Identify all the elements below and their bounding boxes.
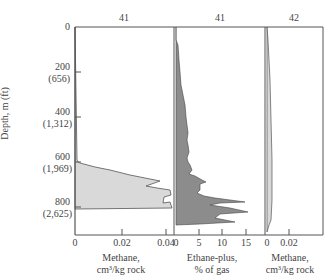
- panel2-title: 41: [215, 12, 225, 23]
- panel3-methane-area: [267, 27, 272, 232]
- ytick-600: 600: [40, 151, 70, 162]
- ytick-600-ft: (1,969): [20, 163, 72, 174]
- panel2-ethane-area: [176, 27, 248, 225]
- p3-xtick-0: 0: [265, 237, 270, 248]
- p1-xtick-1: 0.02: [113, 237, 131, 248]
- panel1-methane-area: [75, 27, 172, 209]
- panel3-title: 42: [289, 12, 299, 23]
- p3-xlabel-line2: cm³/kg rock: [266, 264, 314, 275]
- ytick-400: 400: [40, 106, 70, 117]
- ytick-400-ft: (1,312): [20, 118, 72, 129]
- p2-xtick-2: 10: [217, 237, 227, 248]
- ytick-200-ft: (656): [30, 73, 70, 84]
- p1-xtick-0: 0: [73, 237, 78, 248]
- p2-xtick-0: 0: [174, 237, 179, 248]
- p3-xtick-1: 0.02: [280, 237, 298, 248]
- panel1-title: 41: [119, 12, 129, 23]
- ytick-0: 0: [40, 21, 70, 32]
- p1-xtick-2: 0.04: [157, 237, 175, 248]
- ytick-200: 200: [40, 61, 70, 72]
- y-axis-label: Depth, m (ft): [0, 87, 10, 140]
- p2-xtick-1: 5: [197, 237, 202, 248]
- p3-xlabel-line1: Methane,: [271, 252, 309, 263]
- ytick-800-ft: (2,625): [20, 208, 72, 219]
- p1-xlabel-line1: Methane,: [102, 252, 140, 263]
- p2-xlabel-line2: % of gas: [195, 264, 230, 275]
- ytick-800: 800: [40, 196, 70, 207]
- p2-xtick-3: 15: [241, 237, 251, 248]
- p2-xlabel-line1: Ethane-plus,: [187, 252, 237, 263]
- p1-xlabel-line2: cm³/kg rock: [97, 264, 145, 275]
